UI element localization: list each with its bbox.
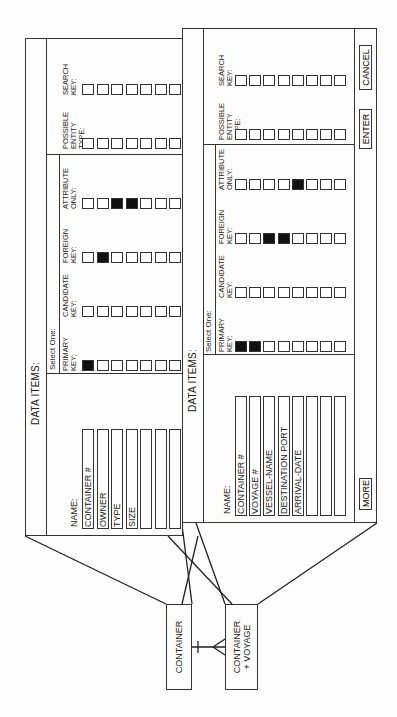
data-item-field[interactable] xyxy=(140,429,152,529)
checkbox[interactable] xyxy=(235,75,247,86)
checkbox[interactable] xyxy=(111,360,123,371)
checkbox[interactable] xyxy=(169,198,181,209)
data-item-field[interactable]: VOYAGE # xyxy=(249,396,261,516)
checkbox[interactable] xyxy=(334,233,346,244)
checkbox[interactable] xyxy=(140,84,152,95)
checkbox[interactable] xyxy=(278,341,290,352)
data-item-field[interactable] xyxy=(320,396,332,516)
checkbox[interactable] xyxy=(82,360,94,371)
checkbox[interactable] xyxy=(140,252,152,263)
checkbox[interactable] xyxy=(278,75,290,86)
checkbox[interactable] xyxy=(263,75,275,86)
checkbox[interactable] xyxy=(235,341,247,352)
more-button[interactable]: MORE xyxy=(359,478,372,510)
checkbox[interactable] xyxy=(334,287,346,298)
checkbox[interactable] xyxy=(155,198,167,209)
checkbox[interactable] xyxy=(82,198,94,209)
checkbox[interactable] xyxy=(235,129,247,140)
checkbox[interactable] xyxy=(263,233,275,244)
checkbox[interactable] xyxy=(82,252,94,263)
data-item-field[interactable]: TYPE xyxy=(111,429,123,529)
checkbox[interactable] xyxy=(169,252,181,263)
checkbox[interactable] xyxy=(249,233,261,244)
checkbox[interactable] xyxy=(140,306,152,317)
checkbox[interactable] xyxy=(320,287,332,298)
checkbox[interactable] xyxy=(249,179,261,190)
checkbox[interactable] xyxy=(155,252,167,263)
checkbox[interactable] xyxy=(126,198,138,209)
checkbox[interactable] xyxy=(320,129,332,140)
checkbox[interactable] xyxy=(97,360,109,371)
checkbox[interactable] xyxy=(82,306,94,317)
checkbox[interactable] xyxy=(235,233,247,244)
checkbox[interactable] xyxy=(320,341,332,352)
checkbox[interactable] xyxy=(235,179,247,190)
checkbox[interactable] xyxy=(155,138,167,149)
checkbox[interactable] xyxy=(334,129,346,140)
checkbox[interactable] xyxy=(334,179,346,190)
data-item-field[interactable]: CONTAINER # xyxy=(82,429,94,529)
checkbox[interactable] xyxy=(111,84,123,95)
checkbox[interactable] xyxy=(126,306,138,317)
checkbox[interactable] xyxy=(169,360,181,371)
checkbox[interactable] xyxy=(140,198,152,209)
checkbox[interactable] xyxy=(155,84,167,95)
checkbox[interactable] xyxy=(111,306,123,317)
checkbox[interactable] xyxy=(126,252,138,263)
checkbox[interactable] xyxy=(97,84,109,95)
data-item-field[interactable]: SIZE xyxy=(126,429,138,529)
cancel-button[interactable]: CANCEL xyxy=(359,45,372,90)
data-item-field[interactable]: VESSEL-NAME xyxy=(263,396,275,516)
checkbox[interactable] xyxy=(249,129,261,140)
checkbox[interactable] xyxy=(82,84,94,95)
checkbox[interactable] xyxy=(334,75,346,86)
checkbox[interactable] xyxy=(320,233,332,244)
checkbox[interactable] xyxy=(334,341,346,352)
checkbox[interactable] xyxy=(97,252,109,263)
checkbox[interactable] xyxy=(155,306,167,317)
enter-button[interactable]: ENTER xyxy=(359,109,372,149)
checkbox[interactable] xyxy=(278,233,290,244)
checkbox[interactable] xyxy=(306,179,318,190)
checkbox[interactable] xyxy=(306,341,318,352)
checkbox[interactable] xyxy=(292,75,304,86)
checkbox[interactable] xyxy=(263,179,275,190)
checkbox[interactable] xyxy=(97,138,109,149)
checkbox[interactable] xyxy=(155,360,167,371)
checkbox[interactable] xyxy=(249,341,261,352)
checkbox[interactable] xyxy=(292,287,304,298)
checkbox[interactable] xyxy=(263,287,275,298)
checkbox[interactable] xyxy=(235,287,247,298)
checkbox[interactable] xyxy=(126,138,138,149)
checkbox[interactable] xyxy=(169,306,181,317)
checkbox[interactable] xyxy=(292,179,304,190)
checkbox[interactable] xyxy=(306,75,318,86)
data-item-field[interactable]: DESTINATION PORT xyxy=(278,396,290,516)
checkbox[interactable] xyxy=(278,129,290,140)
checkbox[interactable] xyxy=(97,306,109,317)
checkbox[interactable] xyxy=(320,179,332,190)
checkbox[interactable] xyxy=(82,138,94,149)
checkbox[interactable] xyxy=(278,179,290,190)
checkbox[interactable] xyxy=(306,233,318,244)
checkbox[interactable] xyxy=(126,360,138,371)
data-item-field[interactable] xyxy=(306,396,318,516)
entity-container[interactable]: CONTAINER xyxy=(166,604,192,690)
checkbox[interactable] xyxy=(320,75,332,86)
data-item-field[interactable] xyxy=(334,396,346,516)
checkbox[interactable] xyxy=(278,287,290,298)
checkbox[interactable] xyxy=(126,84,138,95)
checkbox[interactable] xyxy=(111,252,123,263)
data-item-field[interactable]: ARRIVAL-DATE xyxy=(292,396,304,516)
checkbox[interactable] xyxy=(140,138,152,149)
checkbox[interactable] xyxy=(263,341,275,352)
data-item-field[interactable] xyxy=(155,429,167,529)
data-item-field[interactable]: OWNER xyxy=(97,429,109,529)
entity-container-voyage[interactable]: CONTAINER + VOYAGE xyxy=(225,604,258,690)
checkbox[interactable] xyxy=(97,198,109,209)
checkbox[interactable] xyxy=(249,287,261,298)
checkbox[interactable] xyxy=(111,198,123,209)
checkbox[interactable] xyxy=(292,129,304,140)
data-item-field[interactable]: CONTAINER # xyxy=(235,396,247,516)
data-item-field[interactable] xyxy=(169,429,181,529)
